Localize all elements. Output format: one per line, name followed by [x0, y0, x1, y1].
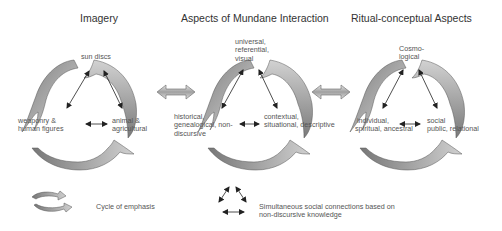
- label-contextual: contextual, situational, descriptive: [264, 113, 335, 130]
- legend-cycle-icon: [32, 191, 72, 212]
- legend-cycle-label: Cycle of emphasis: [96, 203, 155, 211]
- label-universal: universal, referential, visual: [235, 38, 269, 63]
- label-historical: historical, genealogical, non- discursiv…: [174, 113, 233, 138]
- label-sun-discs: sun discs: [81, 53, 111, 61]
- double-arrow-imagery-mundane: [157, 85, 195, 99]
- panel-title-imagery: Imagery: [80, 12, 118, 24]
- legend-connections-icon: [219, 187, 246, 212]
- cycle-arrows-ritual: [350, 60, 465, 170]
- panel-title-mundane: Aspects of Mundane Interaction: [181, 12, 329, 24]
- label-animal: animal & agricultural: [112, 117, 147, 134]
- label-social: social public, relational: [427, 117, 479, 134]
- cycle-arrows-imagery: [22, 60, 137, 170]
- double-arrow-mundane-ritual: [312, 85, 350, 99]
- label-individual: individual, spiritual, ancestral: [355, 117, 413, 134]
- label-cosmological: Cosmo- logical: [399, 45, 424, 62]
- legend-connections-label: Simultaneous social connections based on…: [259, 203, 395, 220]
- label-weaponry: weaponry & human figures: [18, 117, 64, 134]
- panel-title-ritual: Ritual-conceptual Aspects: [351, 12, 472, 24]
